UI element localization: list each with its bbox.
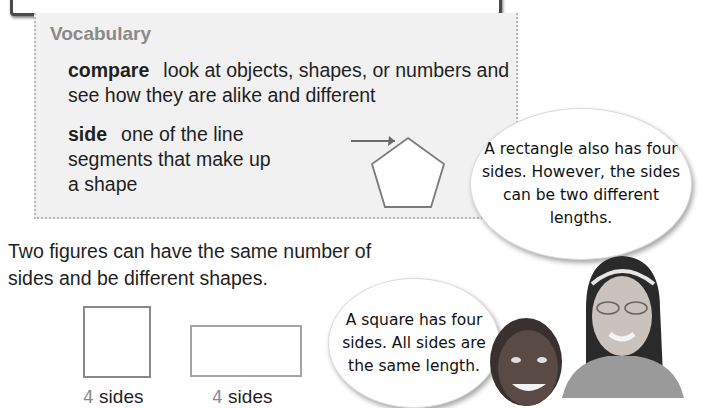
speech-bubble-girl: A rectangle also has four sides. However… xyxy=(470,108,692,260)
rectangle-figure xyxy=(190,325,302,377)
boy-photo xyxy=(484,310,568,408)
lesson-text: Two figures can have the same number of … xyxy=(8,238,388,292)
pentagon-illustration xyxy=(351,133,461,223)
term-word: compare xyxy=(68,59,149,81)
vocabulary-box: Vocabulary comparelook at objects, shape… xyxy=(34,13,518,219)
rectangle-sides-label: 4 sides xyxy=(212,386,272,408)
speech-bubble-boy: A square has four sides. All sides are t… xyxy=(328,278,500,408)
pentagon-shape xyxy=(372,138,444,207)
square-sides-label: 4 sides xyxy=(83,386,143,408)
girl-photo xyxy=(556,248,688,398)
square-figure xyxy=(83,306,151,378)
vocabulary-title: Vocabulary xyxy=(50,23,151,45)
term-compare: comparelook at objects, shapes, or numbe… xyxy=(68,58,518,108)
term-word: side xyxy=(68,123,107,145)
term-side: sideone of the line segments that make u… xyxy=(68,122,278,197)
